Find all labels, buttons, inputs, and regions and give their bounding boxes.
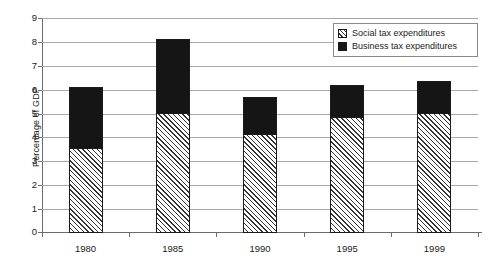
x-tick-mark-1995 [304, 233, 305, 237]
legend-item-social[interactable]: Social tax expenditures [338, 27, 473, 40]
bar-segment-business-1995 [331, 86, 363, 120]
legend-label-social: Social tax expenditures [352, 29, 445, 38]
stacked-bar-1990[interactable] [243, 97, 277, 233]
y-tick-label-7: 7 [32, 61, 37, 71]
y-tick-label-0: 0 [32, 227, 37, 237]
stacked-bar-1995[interactable] [330, 85, 364, 233]
legend-label-business: Business tax expenditures [352, 42, 457, 51]
bar-group-1990 [216, 18, 303, 233]
bar-segment-social-1990 [244, 134, 276, 232]
chart-legend: Social tax expenditures Business tax exp… [333, 23, 478, 57]
stacked-bar-chart: Percentage of GDP 9 8 7 6 5 4 3 2 1 [0, 0, 495, 267]
y-tick-label-5: 5 [32, 109, 37, 119]
legend-item-business[interactable]: Business tax expenditures [338, 40, 473, 53]
y-tick-label-3: 3 [32, 157, 37, 167]
bar-segment-business-1999 [418, 82, 450, 114]
y-tick-label-1: 1 [32, 204, 37, 214]
x-axis-label-1999: 1999 [390, 243, 478, 254]
x-axis-label-1995: 1995 [303, 243, 391, 254]
y-tick-label-6: 6 [32, 85, 37, 95]
legend-swatch-social-icon [338, 29, 347, 38]
bar-segment-social-1985 [157, 113, 189, 233]
x-tick-mark-1980 [42, 233, 43, 237]
x-axis-label-1980: 1980 [42, 243, 130, 254]
bar-segment-social-1995 [331, 117, 363, 232]
bar-segment-business-1985 [157, 40, 189, 114]
x-axis-label-1985: 1985 [129, 243, 217, 254]
stacked-bar-1980[interactable] [69, 87, 103, 233]
stacked-bar-1985[interactable] [156, 39, 190, 233]
bar-group-1980 [42, 18, 129, 233]
x-tick-mark-1990 [216, 233, 217, 237]
bar-segment-business-1980 [70, 88, 102, 150]
x-axis-label-1990: 1990 [216, 243, 304, 254]
y-tick-label-9: 9 [32, 13, 37, 23]
y-tick-label-4: 4 [32, 133, 37, 143]
stacked-bar-1999[interactable] [417, 81, 451, 233]
x-tick-mark-1999 [391, 233, 392, 237]
y-tick-label-8: 8 [32, 37, 37, 47]
x-tick-mark-end [478, 233, 479, 237]
bar-group-1985 [129, 18, 216, 233]
bar-segment-social-1999 [418, 113, 450, 233]
x-tick-mark-1985 [129, 233, 130, 237]
bar-segment-business-1990 [244, 98, 276, 136]
y-tick-label-2: 2 [32, 180, 37, 190]
legend-swatch-business-icon [338, 42, 347, 51]
bar-segment-social-1980 [70, 148, 102, 232]
